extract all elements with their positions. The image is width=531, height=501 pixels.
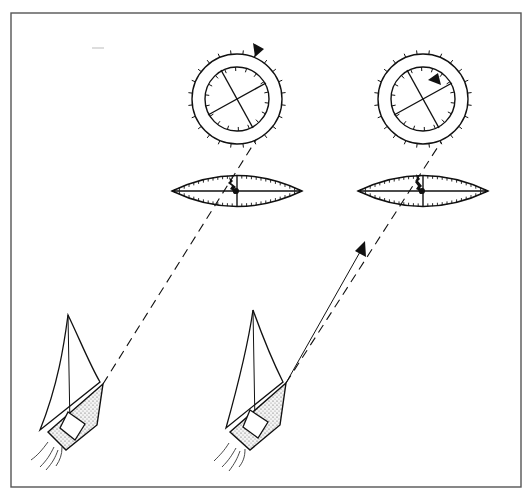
bearing-line-right — [286, 142, 441, 383]
compass-dial-left — [188, 43, 285, 148]
sailboat-left — [31, 315, 103, 470]
compass-dial-right — [374, 50, 471, 147]
right-panel — [214, 50, 488, 471]
horizon-indicator-right — [358, 174, 488, 207]
course-arrowhead-icon — [355, 241, 366, 257]
diagram-canvas — [0, 0, 531, 501]
horizon-indicator-left — [172, 175, 302, 207]
heading-marker-icon — [428, 73, 441, 85]
bearing-line-left — [103, 140, 256, 384]
course-arrow-right — [286, 252, 360, 383]
sailboat-right — [214, 310, 286, 471]
heading-marker-icon — [253, 43, 264, 57]
